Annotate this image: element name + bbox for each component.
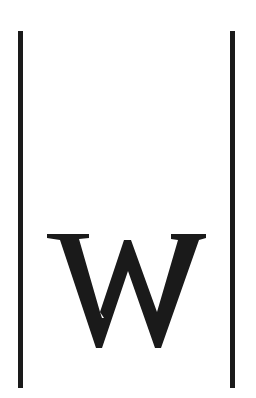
w-letter-icon	[0, 0, 256, 398]
